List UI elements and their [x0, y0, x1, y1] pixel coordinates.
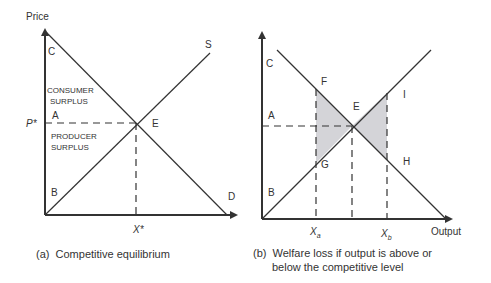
- consumer-surplus-label-line1: CONSUMER: [47, 86, 94, 95]
- panel-b-label-b: B: [268, 187, 275, 198]
- panel-a-caption: (a) Competitive equilibrium: [36, 248, 170, 260]
- xb-label: Xb: [380, 228, 392, 241]
- panel-b-label-g: G: [321, 159, 329, 170]
- diagram-canvas: Price C CONSUMER SURPLUS A P* E PRODUCER…: [0, 0, 491, 283]
- panel-b-label-i: I: [403, 89, 406, 100]
- panel-a-competitive-equilibrium: Price C CONSUMER SURPLUS A P* E PRODUCER…: [26, 11, 236, 260]
- producer-surplus-label-line1: PRODUCER: [51, 132, 97, 141]
- panel-b-label-e: E: [353, 101, 360, 112]
- panel-a-label-b: B: [51, 187, 58, 198]
- panel-a-y-axis-label: Price: [26, 11, 49, 22]
- equilibrium-price-label: P*: [26, 118, 38, 129]
- panel-b-welfare-loss: C F I E A G H B Xa Xb Output (b) Welfare…: [253, 33, 461, 273]
- consumer-surplus-label-line2: SURPLUS: [50, 97, 88, 106]
- panel-b-supply-curve: [262, 50, 431, 219]
- panel-b-label-a: A: [268, 110, 275, 121]
- panel-a-label-e: E: [152, 118, 159, 129]
- panel-b-label-c: C: [266, 58, 273, 69]
- panel-b-caption-line1: (b) Welfare loss if output is above or: [253, 247, 432, 259]
- panel-a-label-c: C: [48, 46, 55, 57]
- panel-b-caption-line2: below the competitive level: [272, 261, 403, 273]
- panel-b-demand-curve: [277, 50, 446, 219]
- producer-surplus-label-line2: SURPLUS: [51, 143, 89, 152]
- panel-b-label-f: F: [321, 76, 327, 87]
- panel-a-label-a: A: [52, 110, 59, 121]
- panel-b-x-axis-label: Output: [431, 226, 461, 237]
- equilibrium-quantity-label: X*: [132, 224, 145, 235]
- panel-b-label-h: H: [403, 156, 410, 167]
- panel-a-label-d: D: [228, 191, 235, 202]
- panel-a-label-s: S: [205, 39, 212, 50]
- xa-label: Xa: [309, 226, 321, 239]
